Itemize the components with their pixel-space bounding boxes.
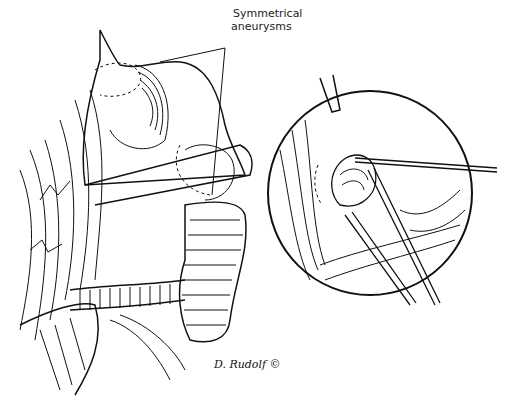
surgical-illustration <box>0 0 513 411</box>
callout-label-line1: Symmetrical <box>233 8 302 20</box>
upper-flap <box>83 30 245 185</box>
lower-hatching <box>40 315 185 390</box>
callout-label-line2: aneurysms <box>231 21 292 33</box>
lower-aneurysm <box>176 145 234 200</box>
horizontal-vessel <box>70 280 185 310</box>
vertical-vessel <box>180 202 246 342</box>
central-band <box>85 145 252 205</box>
suction-tip <box>320 75 340 112</box>
upper-aneurysm <box>95 63 168 149</box>
artist-signature: D. Rudolf © <box>214 358 281 371</box>
inset-view <box>268 75 497 305</box>
lower-left-structure <box>20 304 98 395</box>
callout-lines <box>160 48 225 195</box>
forceps <box>345 168 440 305</box>
clip-applier <box>355 158 497 172</box>
